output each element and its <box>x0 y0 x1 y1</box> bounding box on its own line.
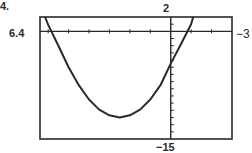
axes <box>40 17 232 139</box>
graph-plot <box>0 0 252 153</box>
viewing-window-frame <box>40 17 232 139</box>
